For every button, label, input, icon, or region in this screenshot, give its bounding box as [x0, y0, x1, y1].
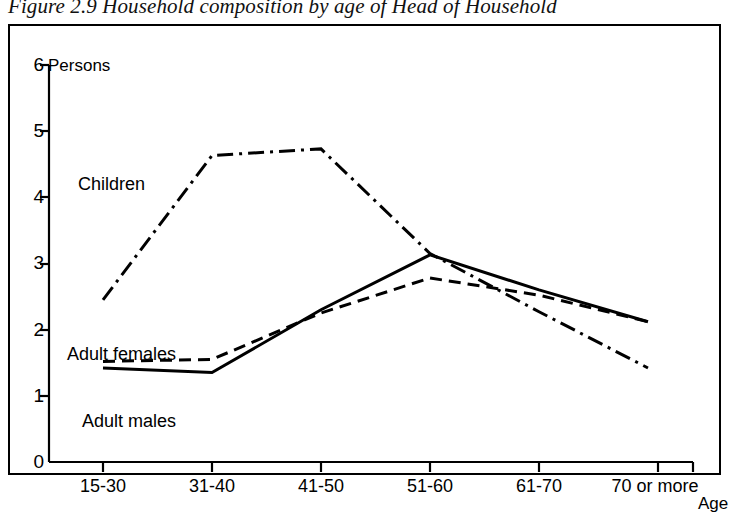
x-axis-title: Age	[698, 494, 728, 514]
series-line-adult-females	[103, 278, 648, 361]
x-tick-label-51-60: 51-60	[407, 476, 453, 497]
y-axis-ticks	[40, 65, 49, 396]
x-tick-label-61-70: 61-70	[516, 476, 562, 497]
figure-title: Figure 2.9 Household composition by age …	[8, 0, 557, 19]
data-series	[103, 149, 648, 373]
x-tick-label-70-or-more: 70 or more	[611, 476, 698, 497]
axis-lines	[49, 65, 693, 462]
x-axis-ticks	[103, 462, 693, 472]
series-line-children	[103, 149, 648, 368]
chart-frame: Persons Age 6 5 4 3 2 1 0 15-30 31-40 41…	[8, 24, 721, 475]
x-tick-label-41-50: 41-50	[298, 476, 344, 497]
plot-area	[10, 26, 719, 473]
x-tick-label-31-40: 31-40	[189, 476, 235, 497]
x-tick-label-15-30: 15-30	[80, 476, 126, 497]
series-line-adult-males	[103, 255, 648, 373]
